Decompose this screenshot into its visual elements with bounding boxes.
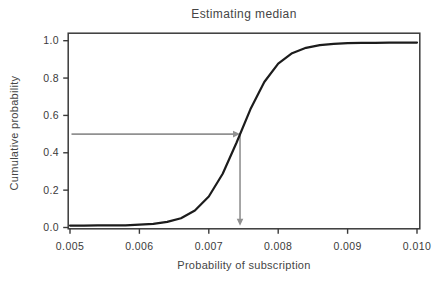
- x-tick-label: 0.007: [195, 240, 223, 252]
- y-tick-label: 0.8: [43, 72, 59, 84]
- x-tick-label: 0.008: [264, 240, 292, 252]
- x-tick-label: 0.005: [56, 240, 84, 252]
- y-tick-label: 1.0: [43, 34, 59, 46]
- x-axis-label: Probability of subscription: [68, 259, 420, 271]
- x-tick-label: 0.009: [333, 240, 361, 252]
- cdf-plot: 0.0050.0060.0070.0080.0090.0101.00.80.60…: [0, 0, 439, 288]
- x-tick-label: 0.010: [403, 240, 431, 252]
- y-tick-label: 0.0: [43, 221, 59, 233]
- y-tick-label: 0.6: [43, 109, 59, 121]
- y-tick-label: 0.2: [43, 184, 59, 196]
- figure: Estimating median Cumulative probability…: [0, 0, 439, 288]
- y-tick-label: 0.4: [43, 146, 59, 158]
- plot-border: [68, 33, 420, 229]
- median-vertical-arrowhead: [237, 219, 244, 226]
- x-tick-label: 0.006: [125, 240, 153, 252]
